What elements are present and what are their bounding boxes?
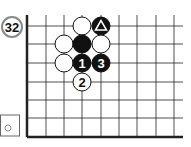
problem-number: 32 — [5, 20, 19, 35]
go-diagram: 13232 — [0, 0, 191, 147]
white-stone — [92, 35, 110, 53]
white-stone-icon — [5, 125, 11, 131]
white-stone — [55, 35, 73, 53]
black-stone-3: 3 — [92, 54, 110, 72]
black-stone-1: 1 — [73, 54, 91, 72]
to-play-indicator — [1, 115, 20, 136]
white-stone-2: 2 — [73, 73, 91, 91]
white-stone — [55, 54, 73, 72]
move-number: 1 — [78, 56, 85, 71]
stones: 132 — [55, 17, 110, 91]
move-number: 3 — [97, 56, 104, 71]
move-number: 2 — [78, 75, 85, 90]
black-stone — [73, 35, 91, 53]
white-stone — [73, 17, 91, 35]
problem-number-badge: 32 — [2, 17, 22, 37]
black-stone — [92, 17, 110, 35]
